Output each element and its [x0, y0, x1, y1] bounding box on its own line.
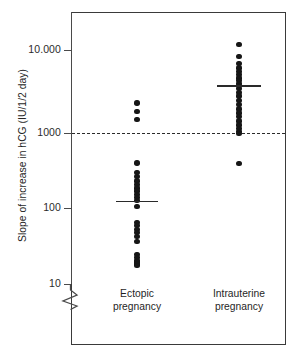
y-axis-tick-labels: 10.000100010010 — [0, 0, 61, 357]
median-marker — [217, 85, 261, 87]
y-axis-tick-label: 1000 — [37, 126, 61, 138]
data-point — [236, 131, 241, 136]
data-point — [134, 239, 139, 244]
y-axis-tick-label: 10.000 — [28, 43, 61, 55]
y-axis-tick-label: 100 — [43, 201, 61, 213]
data-point — [236, 54, 241, 59]
category-label-line: pregnancy — [113, 301, 161, 314]
category-label-line: Ectopic — [113, 288, 161, 301]
data-point — [134, 160, 139, 165]
category-label-line: Intrauterine — [213, 288, 265, 301]
data-point — [134, 109, 139, 114]
median-marker — [116, 201, 158, 203]
data-point — [236, 161, 241, 166]
data-point — [134, 100, 139, 105]
threshold-reference-line — [72, 133, 285, 134]
y-axis-tick — [64, 208, 71, 209]
x-axis-category-label: Intrauterinepregnancy — [213, 288, 265, 313]
y-axis-tick — [64, 50, 71, 51]
data-point — [134, 204, 139, 209]
category-label-line: pregnancy — [213, 301, 265, 314]
axis-break-icon — [58, 284, 84, 310]
y-axis-title: Slope of increase in hCG (IU/1/2 day) — [17, 36, 28, 276]
y-axis-tick — [64, 133, 71, 134]
y-axis-line — [71, 12, 72, 284]
x-axis-category-label: Ectopicpregnancy — [113, 288, 161, 313]
chart-figure: 10.000100010010 Slope of increase in hCG… — [0, 0, 297, 357]
